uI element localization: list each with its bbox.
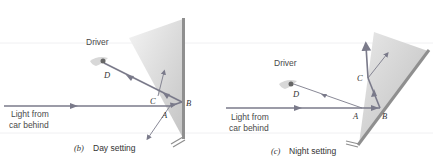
caption-text: Day setting — [93, 143, 136, 153]
light-label-line2: car behind — [9, 120, 49, 130]
rearview-mirror-diagram: Driver D C B A Light from car behind (b)… — [0, 0, 433, 161]
light-label-line2: car behind — [229, 123, 269, 133]
driver-label: Driver — [86, 37, 109, 47]
point-c-label: C — [357, 73, 363, 83]
caption-letter: (b) — [74, 143, 84, 153]
point-a-label: A — [161, 110, 168, 120]
light-label-line1: Light from — [231, 112, 269, 122]
ray-arrow — [70, 103, 78, 109]
caption-letter: (c) — [271, 146, 281, 156]
panel-night-setting: Driver D C B A Light from car behind (c)… — [226, 32, 429, 156]
prism-wedge — [129, 19, 183, 138]
point-d-label: D — [292, 89, 300, 99]
point-b-label: B — [186, 98, 191, 108]
light-label-line1: Light from — [11, 109, 49, 119]
point-b-label: B — [382, 111, 387, 121]
driver-label: Driver — [274, 58, 297, 68]
exit-ray — [366, 46, 368, 78]
prism-wedge — [359, 32, 428, 144]
point-c-label: C — [150, 96, 156, 106]
mirror-backing — [182, 18, 185, 139]
point-d-label: D — [103, 70, 111, 80]
mirror-mount — [346, 141, 359, 147]
point-a-label: A — [352, 111, 359, 121]
caption-text: Night setting — [289, 146, 337, 156]
